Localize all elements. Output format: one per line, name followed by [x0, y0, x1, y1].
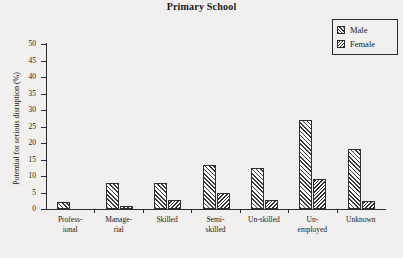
plot-area — [46, 44, 385, 209]
x-tick-mark — [143, 209, 144, 213]
bar-male — [154, 183, 167, 209]
y-tick-label: 10 — [16, 172, 36, 179]
x-category-label-line1: Un- — [307, 215, 319, 224]
bar-female — [168, 200, 181, 209]
x-tick-mark — [288, 209, 289, 213]
legend-swatch-male-icon — [337, 26, 345, 34]
x-category-label-line1: Profess- — [58, 215, 83, 224]
bar-male — [203, 165, 216, 209]
x-category-label-line1: Manage- — [105, 215, 132, 224]
y-tick-label: 15 — [16, 156, 36, 163]
x-category-label-line1: Semi- — [207, 215, 225, 224]
x-category-label-line2: rial — [84, 225, 154, 235]
x-tick-mark — [337, 209, 338, 213]
y-tick-label: 35 — [16, 90, 36, 97]
x-category-label: Unknown — [326, 215, 396, 225]
bar-male — [299, 120, 312, 209]
bar-female — [313, 179, 326, 209]
bar-male — [106, 183, 119, 209]
x-axis-line — [46, 209, 386, 210]
y-tick-label: 5 — [16, 189, 36, 196]
y-tick-label: 40 — [16, 73, 36, 80]
y-tick-label: 0 — [16, 205, 36, 212]
x-category-label-line2: skilled — [181, 225, 251, 235]
x-category-label-line2: employed — [277, 225, 347, 235]
x-category-label-line1: Unknown — [346, 215, 376, 224]
x-category-label-line1: Un-skilled — [248, 215, 280, 224]
y-tick-label: 25 — [16, 123, 36, 130]
legend-label-female: Female — [350, 40, 375, 49]
bar-female — [120, 206, 133, 209]
x-category-label-line1: Skilled — [156, 215, 177, 224]
bar-female — [217, 193, 230, 210]
y-tick-label: 50 — [16, 40, 36, 47]
x-tick-mark — [240, 209, 241, 213]
y-tick-label: 45 — [16, 57, 36, 64]
bar-female — [265, 200, 278, 209]
legend-swatch-female-icon — [337, 40, 345, 48]
bar-female — [362, 201, 375, 209]
legend-item-female[interactable]: Female — [337, 37, 393, 51]
legend-label-male: Male — [350, 26, 367, 35]
x-tick-mark — [94, 209, 95, 213]
y-tick-label: 20 — [16, 139, 36, 146]
chart-container: Primary School Potential for serious dis… — [0, 0, 403, 258]
chart-title: Primary School — [0, 1, 403, 12]
bar-male — [57, 202, 70, 209]
chart-legend: Male Female — [332, 19, 398, 55]
legend-item-male[interactable]: Male — [337, 23, 393, 37]
x-tick-mark — [191, 209, 192, 213]
bar-male — [348, 149, 361, 209]
bar-male — [251, 168, 264, 209]
y-tick-label: 30 — [16, 106, 36, 113]
